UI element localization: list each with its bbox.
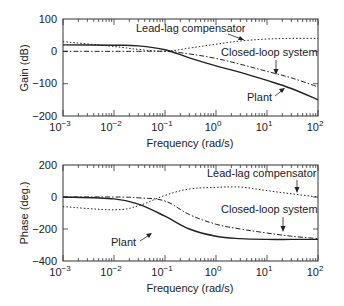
- phase-y-axis-label: Phase (deg.): [18, 182, 30, 245]
- gain-x-axis-label: Frequency (rad/s): [147, 137, 234, 149]
- gain-ytick-100: 100: [39, 13, 57, 25]
- phase-label-closed: Closed-loop system: [221, 203, 318, 215]
- x-tick-label: 10−1: [151, 264, 173, 278]
- gain-ytick-minus100: −100: [32, 77, 57, 89]
- x-tick-label: 10−3: [49, 119, 71, 133]
- x-tick-label: 102: [307, 119, 324, 133]
- x-tick-label: 101: [256, 264, 273, 278]
- gain-ytick-0: 0: [51, 45, 57, 57]
- gain-x-tick-labels: 10−310−210−1100101102: [49, 119, 324, 133]
- phase-label-plant: Plant: [111, 236, 136, 248]
- gain-label-compensator: Lead-lag compensator: [136, 22, 246, 34]
- gain-label-closed: Closed-loop system: [221, 46, 318, 58]
- x-tick-label: 10−1: [151, 119, 173, 133]
- x-tick-label: 10−2: [100, 119, 122, 133]
- x-tick-label: 101: [256, 119, 273, 133]
- arrowhead-icon: [281, 226, 286, 232]
- x-tick-label: 10−2: [100, 264, 122, 278]
- phase-ytick-200: 200: [39, 159, 57, 171]
- gain-plot: 100 0 −100 −200 Gain (dB) 10−310−210−110…: [18, 13, 324, 149]
- x-tick-label: 10−3: [49, 264, 71, 278]
- arrowhead-icon: [295, 187, 300, 193]
- phase-ytick-minus200: −200: [32, 223, 57, 235]
- x-tick-label: 100: [205, 264, 222, 278]
- gain-label-plant: Plant: [247, 91, 272, 103]
- phase-label-compensator: Lead-lag compensator: [207, 167, 317, 179]
- gain-y-axis-label: Gain (dB): [18, 44, 30, 91]
- phase-x-tick-labels: 10−310−210−1100101102: [49, 264, 324, 278]
- x-tick-label: 102: [307, 264, 324, 278]
- arrowhead-icon: [146, 233, 152, 238]
- bode-plot: 100 0 −100 −200 Gain (dB) 10−310−210−110…: [0, 0, 344, 306]
- phase-plot: 200 0 −200 −400 Phase (deg.) 10−310−210−…: [18, 159, 324, 294]
- phase-ytick-0: 0: [51, 191, 57, 203]
- phase-x-axis-label: Frequency (rad/s): [147, 282, 234, 294]
- x-tick-label: 100: [205, 119, 222, 133]
